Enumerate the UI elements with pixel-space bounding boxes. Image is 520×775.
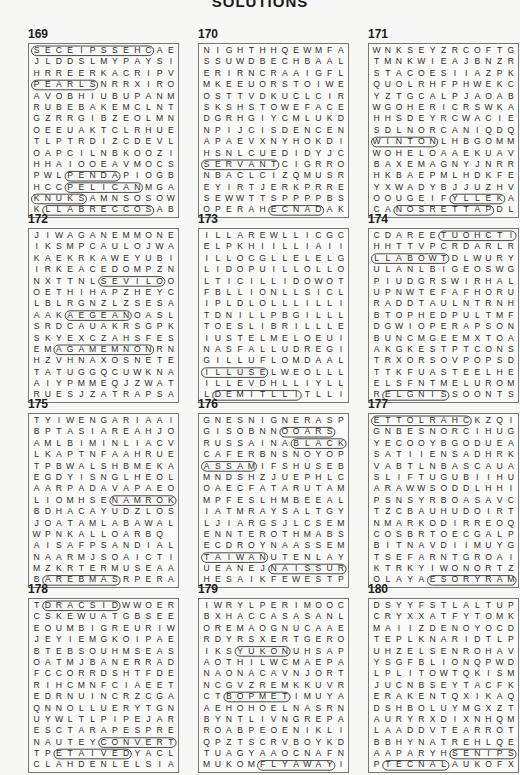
grid-letter: T [235,737,246,748]
grid-letter: U [121,91,132,102]
grid-letter: G [382,102,393,113]
grid-letter: K [393,45,404,56]
grid-letter: L [76,79,87,90]
grid-letter: I [405,321,416,332]
grid-letter: E [87,759,98,770]
grid-letter: E [235,449,246,460]
grid-letter: L [279,703,290,714]
grid-letter: E [201,529,212,540]
grid-letter: D [371,600,382,611]
grid-letter: K [98,102,109,113]
grid-letter: L [109,298,120,309]
grid-letter: E [246,563,257,574]
grid-letter: E [438,680,449,691]
grid-letter: O [483,287,494,298]
grid-letter: D [427,623,438,634]
grid-letter: S [53,540,64,551]
grid-letter: D [505,355,516,366]
grid-letter: E [65,333,76,344]
grid-letter: H [483,714,494,725]
grid-letter: S [143,611,154,622]
grid-letter: E [438,321,449,332]
grid-letter: D [201,113,212,124]
grid-letter: L [143,113,154,124]
grid-letter: A [53,79,64,90]
grid-letter: T [505,506,516,517]
grid-letter: A [42,552,53,563]
grid-letter: E [65,45,76,56]
grid-letter: T [461,344,472,355]
grid-letter: S [461,461,472,472]
grid-letter: J [257,182,268,193]
grid-letter: E [76,182,87,193]
grid-letter: O [212,657,223,668]
grid-letter: I [154,759,165,770]
grid-letter: D [382,230,393,241]
grid-letter: A [335,691,346,702]
grid-letter: B [87,657,98,668]
grid-letter: C [121,68,132,79]
grid-letter: D [324,136,335,147]
grid-letter: U [279,91,290,102]
grid-letter: D [472,634,483,645]
grid-letter: U [31,714,42,725]
grid-letter: E [76,68,87,79]
grid-letter: D [416,182,427,193]
grid-letter: L [257,310,268,321]
grid-letter: X [382,182,393,193]
grid-letter: N [472,714,483,725]
grid-letter: K [53,310,64,321]
grid-letter: I [53,415,64,426]
grid-letter: W [279,367,290,378]
grid-letter: A [461,449,472,460]
grid-letter: Y [257,540,268,551]
grid-letter: A [31,91,42,102]
grid-letter: S [472,102,483,113]
grid-letter: T [76,714,87,725]
grid-letter: K [65,193,76,204]
grid-letter: L [335,378,346,389]
grid-letter: S [313,518,324,529]
grid-letter: N [87,298,98,309]
grid-letter: M [416,333,427,344]
grid-letter: R [461,646,472,657]
grid-letter: A [31,438,42,449]
grid-letter: C [109,367,120,378]
grid-letter: L [279,287,290,298]
grid-letter: N [132,182,143,193]
grid-letter: D [449,483,460,494]
grid-letter: S [223,646,234,657]
grid-letter: L [268,367,279,378]
grid-letter: S [201,159,212,170]
grid-letter: K [505,680,516,691]
grid-letter: H [31,159,42,170]
grid-letter: S [132,321,143,332]
grid-letter: A [154,540,165,551]
grid-letter: I [212,426,223,437]
grid-letter: N [494,298,505,309]
grid-letter: H [483,646,494,657]
grid-letter: G [371,426,382,437]
grid-letter: I [42,680,53,691]
grid-letter: D [505,623,516,634]
grid-letter: O [494,378,505,389]
grid-letter: I [121,680,132,691]
grid-letter: U [154,449,165,460]
grid-letter: A [382,748,393,759]
grid-letter: E [494,438,505,449]
letter-grid-frame: JIWAGANEMMONEIKSMPCAULOJWAKAEKRKAWEYUBII… [28,228,179,403]
grid-letter: B [121,518,132,529]
grid-letter: I [291,321,302,332]
grid-letter: E [143,287,154,298]
grid-letter: H [132,287,143,298]
grid-letter: G [257,518,268,529]
grid-letter: M [302,600,313,611]
grid-letter: T [335,276,346,287]
grid-letter: Y [335,506,346,517]
grid-letter: C [42,182,53,193]
grid-letter: E [165,125,176,136]
grid-letter: A [235,461,246,472]
grid-letter: U [42,102,53,113]
grid-letter: A [472,241,483,252]
grid-letter: A [235,230,246,241]
